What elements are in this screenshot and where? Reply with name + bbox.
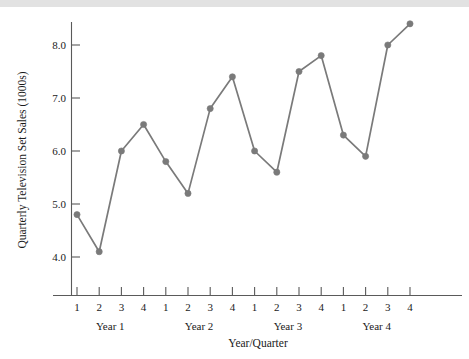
data-point	[207, 106, 213, 112]
x-tick-label: 1	[74, 301, 80, 313]
data-series-line	[77, 24, 410, 252]
x-tick-label: 2	[274, 301, 280, 313]
chart-axes	[53, 22, 462, 296]
line-chart: 4.05.06.07.08.0 1234123412341234 Year 1Y…	[0, 0, 469, 359]
y-tick-label: 6.0	[52, 145, 66, 157]
data-point	[363, 153, 369, 159]
data-point	[229, 74, 235, 80]
data-point	[296, 68, 302, 74]
x-axis-ticks: 1234123412341234	[74, 287, 413, 313]
data-point	[185, 190, 191, 196]
data-point	[74, 212, 80, 218]
data-point	[252, 148, 258, 154]
x-tick-label: 4	[141, 301, 147, 313]
x-tick-label: 3	[385, 301, 391, 313]
year-group-label: Year 3	[274, 320, 303, 332]
x-tick-label: 4	[407, 301, 413, 313]
y-tick-label: 8.0	[52, 39, 66, 51]
x-tick-label: 4	[230, 301, 236, 313]
data-point	[340, 132, 346, 138]
data-point	[118, 148, 124, 154]
year-group-labels: Year 1Year 2Year 3Year 4	[96, 320, 391, 332]
x-axis-title: Year/Quarter	[228, 337, 288, 349]
x-tick-label: 2	[363, 301, 369, 313]
data-point	[407, 21, 413, 27]
year-group-label: Year 1	[96, 320, 125, 332]
x-tick-label: 1	[341, 301, 347, 313]
y-axis-ticks: 4.05.06.07.08.0	[52, 39, 80, 263]
y-tick-label: 7.0	[52, 92, 66, 104]
data-point	[385, 42, 391, 48]
data-point	[274, 169, 280, 175]
y-tick-label: 4.0	[52, 251, 66, 263]
x-tick-label: 2	[185, 301, 191, 313]
x-tick-label: 4	[318, 301, 324, 313]
x-tick-label: 3	[296, 301, 302, 313]
x-tick-label: 2	[96, 301, 102, 313]
year-group-label: Year 4	[362, 320, 391, 332]
x-tick-label: 1	[252, 301, 258, 313]
x-tick-label: 3	[207, 301, 213, 313]
chart-figure: 4.05.06.07.08.0 1234123412341234 Year 1Y…	[0, 0, 469, 359]
y-axis-title: Quarterly Television Set Sales (1000s)	[16, 71, 29, 248]
data-point	[163, 159, 169, 165]
x-tick-label: 1	[163, 301, 169, 313]
data-point	[318, 53, 324, 59]
y-tick-label: 5.0	[52, 198, 66, 210]
data-point	[141, 121, 147, 127]
data-point-markers	[74, 21, 413, 255]
year-group-label: Year 2	[185, 320, 214, 332]
data-point	[96, 249, 102, 255]
x-tick-label: 3	[119, 301, 125, 313]
